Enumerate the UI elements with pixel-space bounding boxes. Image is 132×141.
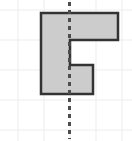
geometry-figure: [0, 0, 132, 141]
figure-canvas: [0, 0, 132, 141]
shaded-polygon: [41, 13, 118, 94]
